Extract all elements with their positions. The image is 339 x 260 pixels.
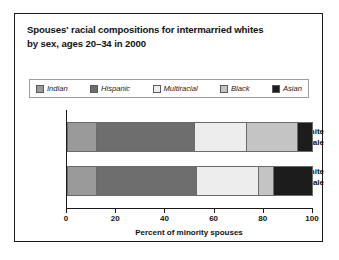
- x-tick-label: 80: [248, 214, 278, 223]
- x-tick-label: 20: [100, 214, 130, 223]
- bar-segment-indian: [67, 122, 97, 152]
- bar-segment-multiracial: [197, 166, 259, 196]
- legend-label-asian: Asian: [283, 84, 302, 93]
- legend-item-indian: Indian: [36, 84, 68, 93]
- x-tick-label: 100: [297, 214, 327, 223]
- x-tick-mark: [263, 209, 264, 213]
- plot-area: White female White male 020406080100 Per…: [15, 110, 324, 243]
- chart-legend: Indian Hispanic Multiracial Black Asian: [29, 79, 309, 98]
- bar-segment-black: [247, 122, 299, 152]
- bar-segment-indian: [67, 166, 97, 196]
- legend-swatch-black: [220, 85, 228, 93]
- bar-segment-hispanic: [97, 122, 195, 152]
- chart-title-line-1: Spouses' racial compositions for interma…: [27, 23, 313, 37]
- legend-item-hispanic: Hispanic: [90, 84, 130, 93]
- legend-label-black: Black: [231, 84, 250, 93]
- legend-swatch-hispanic: [90, 85, 98, 93]
- bar-segment-asian: [298, 122, 313, 152]
- table-row: [67, 122, 313, 152]
- legend-label-hispanic: Hispanic: [101, 84, 130, 93]
- bar-segment-hispanic: [97, 166, 198, 196]
- legend-item-black: Black: [220, 84, 250, 93]
- x-tick-mark: [115, 209, 116, 213]
- chart-title-line-2: by sex, ages 20–34 in 2000: [27, 37, 313, 51]
- legend-swatch-indian: [36, 85, 44, 93]
- x-tick-label: 40: [149, 214, 179, 223]
- legend-label-indian: Indian: [47, 84, 68, 93]
- legend-item-multiracial: Multiracial: [153, 84, 198, 93]
- axis-frame: 020406080100: [66, 110, 312, 209]
- x-tick-label: 0: [51, 214, 81, 223]
- bar-segment-asian: [274, 166, 313, 196]
- bar-segment-multiracial: [195, 122, 247, 152]
- chart-title: Spouses' racial compositions for interma…: [27, 23, 313, 50]
- legend-label-multiracial: Multiracial: [164, 84, 198, 93]
- legend-swatch-multiracial: [153, 85, 161, 93]
- x-axis-title: Percent of minority spouses: [66, 228, 312, 237]
- x-tick-mark: [66, 209, 67, 213]
- x-tick-mark: [214, 209, 215, 213]
- x-tick-mark: [164, 209, 165, 213]
- chart-figure: Spouses' racial compositions for interma…: [14, 13, 323, 242]
- legend-item-asian: Asian: [272, 84, 302, 93]
- table-row: [67, 166, 313, 196]
- x-tick-mark: [312, 209, 313, 213]
- legend-swatch-asian: [272, 85, 280, 93]
- bar-segment-black: [259, 166, 274, 196]
- x-axis-line: [66, 208, 313, 209]
- x-tick-label: 60: [199, 214, 229, 223]
